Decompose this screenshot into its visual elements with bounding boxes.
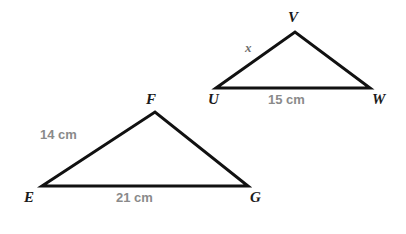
vertex-label-e: E (24, 190, 34, 205)
vertex-label-f: F (146, 92, 156, 107)
vertex-label-v: V (288, 10, 298, 25)
triangle-uvw-outline (216, 32, 370, 88)
vertex-label-g: G (250, 190, 261, 205)
triangle-efg-outline (42, 112, 248, 186)
side-label-eg-measure: 21 cm (116, 191, 153, 204)
vertex-label-u: U (208, 92, 219, 107)
side-label-uv-variable: x (245, 41, 252, 54)
triangles-canvas (0, 0, 406, 234)
vertex-label-w: W (372, 92, 385, 107)
side-label-ef-measure: 14 cm (40, 128, 77, 141)
side-label-uw-measure: 15 cm (268, 93, 305, 106)
geometry-figure: V U W x 15 cm F E G 14 cm 21 cm (0, 0, 406, 234)
